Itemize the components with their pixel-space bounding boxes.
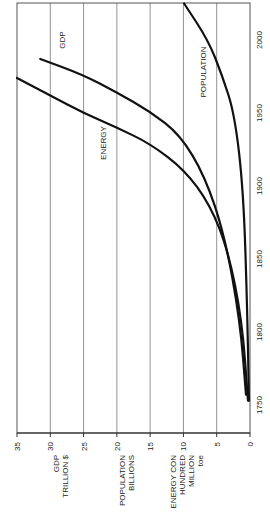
year-tick-label: 1750 [255,396,264,414]
gridlines [50,3,216,433]
axis-title-line: HUNDRED [178,455,187,495]
axis-title-line: ENERGY CON [169,455,178,509]
value-tick-label: 35 [13,441,22,450]
series-label-population: POPULATION [199,46,208,97]
series-labels: GDP ENERGY POPULATION [58,31,208,160]
axis-titles: GDPTRILLION $POPULATIONBILLIONSENERGY CO… [52,454,205,508]
axis-title-line: BILLIONS [127,455,136,491]
rotated-line-chart: 05101520253035 175018001850190019502000 … [0,0,270,527]
value-tick-label: 15 [146,441,155,450]
value-tick-label: 10 [179,441,188,450]
value-tick-label: 25 [80,441,89,450]
year-tick-label: 1900 [255,177,264,195]
series-line-gdp [40,59,246,395]
value-tick-label: 30 [46,441,55,450]
series-line-energy [17,78,248,401]
series-lines [17,4,249,401]
year-axis: 175018001850190019502000 [255,31,264,414]
axis-title-line: toe [196,454,205,466]
axis-title-line: GDP [52,455,61,472]
axis-title-line: MILLION [187,455,196,487]
axis-title-line: POPULATION [118,455,127,506]
value-tick-label: 20 [113,441,122,450]
value-axis: 05101520253035 [13,433,255,451]
year-tick-label: 1950 [255,104,264,122]
value-tick-label: 0 [246,441,255,446]
year-tick-label: 1850 [255,250,264,268]
year-tick-label: 1800 [255,323,264,341]
value-tick-label: 5 [213,441,222,446]
series-label-gdp: GDP [58,31,67,48]
axis-title-line: TRILLION $ [61,454,70,497]
series-label-energy: ENERGY [99,125,108,159]
year-tick-label: 2000 [255,31,264,49]
